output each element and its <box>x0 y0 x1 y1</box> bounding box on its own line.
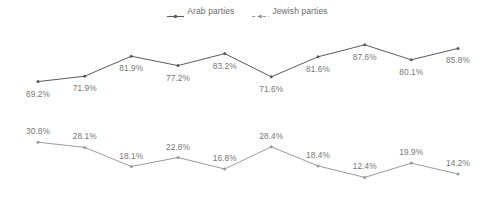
data-point-marker[interactable] <box>410 58 413 61</box>
data-point-marker[interactable] <box>363 176 366 179</box>
data-label: 30.8% <box>26 126 50 136</box>
data-label: 71.6% <box>259 84 283 94</box>
data-point-marker[interactable] <box>270 145 273 148</box>
data-label: 77.2% <box>166 73 190 83</box>
data-point-marker[interactable] <box>223 168 226 171</box>
data-point-marker[interactable] <box>317 164 320 167</box>
data-label: 16.8% <box>213 153 237 163</box>
data-point-marker[interactable] <box>37 80 40 83</box>
series-polyline <box>38 142 458 177</box>
legend-label-jewish-parties: Jewish parties <box>272 6 327 16</box>
legend-item-jewish-parties[interactable]: Jewish parties <box>252 6 327 16</box>
legend-item-arab-parties[interactable]: Arab parties <box>167 6 234 16</box>
data-label: 80.1% <box>399 67 423 77</box>
legend-label-arab-parties: Arab parties <box>187 6 234 16</box>
data-point-marker[interactable] <box>363 43 366 46</box>
data-label: 69.2% <box>26 89 50 99</box>
data-point-marker[interactable] <box>130 55 133 58</box>
legend-marker-solid-icon <box>167 7 184 16</box>
data-label: 81.6% <box>306 64 330 74</box>
data-label: 87.6% <box>353 52 377 62</box>
data-label: 14.2% <box>446 158 470 168</box>
data-label: 18.1% <box>119 151 143 161</box>
series-band-arab-parties: 69.2%71.9%81.9%77.2%83.2%71.6%81.6%87.6%… <box>0 22 495 112</box>
data-point-marker[interactable] <box>177 64 180 67</box>
data-label: 83.2% <box>213 61 237 71</box>
data-label: 22.8% <box>166 142 190 152</box>
data-point-marker[interactable] <box>83 146 86 149</box>
line-chart: Arab parties Jewish parties 69.2%71.9%81… <box>0 0 495 204</box>
series-band-jewish-parties: 30.8%28.1%18.1%22.8%16.8%28.4%18.4%12.4%… <box>0 118 495 204</box>
data-point-marker[interactable] <box>270 75 273 78</box>
data-point-marker[interactable] <box>83 75 86 78</box>
data-label: 18.4% <box>306 150 330 160</box>
data-point-marker[interactable] <box>223 52 226 55</box>
data-label: 19.9% <box>399 147 423 157</box>
data-label: 71.9% <box>73 83 97 93</box>
data-label: 28.4% <box>259 131 283 141</box>
data-label: 28.1% <box>73 131 97 141</box>
data-label: 85.8% <box>446 55 470 65</box>
data-point-marker[interactable] <box>37 141 40 144</box>
data-point-marker[interactable] <box>457 47 460 50</box>
legend-marker-dashed-icon <box>252 7 269 16</box>
data-point-marker[interactable] <box>317 55 320 58</box>
series-polyline <box>38 45 458 82</box>
data-label: 81.9% <box>119 63 143 73</box>
data-point-marker[interactable] <box>130 165 133 168</box>
data-point-marker[interactable] <box>177 156 180 159</box>
chart-legend: Arab parties Jewish parties <box>0 0 495 22</box>
data-point-marker[interactable] <box>410 162 413 165</box>
data-point-marker[interactable] <box>457 173 460 176</box>
data-label: 12.4% <box>353 161 377 171</box>
